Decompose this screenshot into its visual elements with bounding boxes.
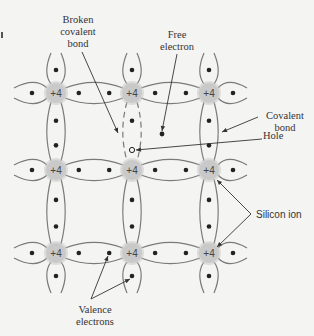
valence-electron (54, 68, 59, 73)
bond-curve (200, 53, 204, 84)
valence-electron (77, 91, 82, 96)
valence-electron (207, 224, 212, 229)
bond-curve (61, 179, 65, 244)
hole-label: Hole (263, 130, 283, 142)
bond-curve (14, 82, 47, 88)
free-electron-label: Free electron (154, 29, 200, 53)
bond-curve (47, 53, 51, 84)
valence-electron (54, 118, 59, 123)
valence-electrons-label-line2: electrons (70, 316, 120, 328)
valence-electron (207, 198, 212, 203)
bond-curve (218, 159, 247, 165)
bond-curve (65, 258, 123, 264)
valence-electron (77, 168, 82, 173)
bond-curve (218, 98, 247, 104)
bond-curve (65, 98, 123, 104)
bond-curve (141, 159, 200, 165)
bond-curve (137, 179, 141, 244)
valence-leader-left (91, 256, 108, 299)
silicon-ion: +4 (120, 241, 144, 265)
valence-electron (231, 251, 236, 256)
bond-curve (61, 53, 65, 84)
valence-electron (107, 251, 112, 256)
valence-electron (30, 251, 35, 256)
bond-curve (218, 82, 247, 88)
bond-curve (123, 262, 127, 293)
valence-electron (54, 224, 59, 229)
silicon-ion: +4 (44, 158, 68, 182)
silicon-ion: +4 (44, 81, 68, 105)
valence-electron (54, 143, 59, 148)
ion-charge: +4 (203, 88, 215, 99)
ion-charge: +4 (50, 165, 62, 176)
bond-curve (65, 159, 123, 165)
valence-electron (130, 198, 135, 203)
hole-marker (129, 147, 134, 152)
bond-curve (14, 175, 47, 181)
bond-curve (14, 98, 47, 104)
free-electron-leader (162, 54, 177, 131)
bond-curve (65, 82, 123, 88)
hole-leader (136, 139, 262, 150)
bond-curve (214, 179, 218, 244)
bond-curve (218, 242, 247, 248)
bond-curve (14, 258, 47, 264)
valence-electron (207, 68, 212, 73)
valence-electron (130, 224, 135, 229)
valence-leader-left-arrowhead (104, 256, 108, 261)
ion-charge: +4 (203, 248, 215, 259)
bond-curve (200, 102, 204, 161)
bond-curve (14, 159, 47, 165)
bond-curve (218, 258, 247, 264)
valence-electron (184, 91, 189, 96)
silicon-ion-leader-lower (217, 214, 251, 247)
ion-charge: +4 (126, 165, 138, 176)
valence-electron (153, 168, 158, 173)
bond-curve (65, 242, 123, 248)
silicon-ion: +4 (197, 241, 221, 265)
bond-curve (141, 242, 200, 248)
valence-electron (54, 198, 59, 203)
silicon-ion: +4 (197, 81, 221, 105)
silicon-ion: +4 (120, 81, 144, 105)
valence-electron (153, 91, 158, 96)
bond-curve (214, 102, 218, 161)
valence-electron (231, 168, 236, 173)
valence-electron (207, 274, 212, 279)
free-electron-label-line2: electron (154, 41, 200, 53)
bond-curve (47, 262, 51, 293)
broken-bond-label-line2: covalent (48, 26, 108, 38)
bond-curve (123, 179, 127, 244)
valence-electron (130, 68, 135, 73)
bond-curve (14, 242, 47, 248)
silicon-ion-leader-upper (217, 180, 251, 214)
broken-bond-label: Broken covalent bond (48, 14, 108, 50)
bond-curve (61, 102, 65, 161)
bond-curve (137, 53, 141, 84)
bond-curve (218, 175, 247, 181)
bond-curve (61, 262, 65, 293)
broken-bond-label-line3: bond (48, 38, 108, 50)
valence-leader-right (91, 279, 130, 299)
valence-electron (130, 274, 135, 279)
ion-charge: +4 (50, 248, 62, 259)
bond-curve (214, 262, 218, 293)
valence-electron (107, 168, 112, 173)
bond-curve (65, 175, 123, 181)
valence-electron (130, 118, 135, 123)
broken-bond-curve (137, 102, 141, 161)
silicon-ion: +4 (44, 241, 68, 265)
valence-electron (77, 251, 82, 256)
ion-charge: +4 (50, 88, 62, 99)
covalent-bond-label-line1: Covalent (260, 110, 310, 122)
valence-electron (184, 168, 189, 173)
covalent-bond-leader (222, 117, 258, 132)
bond-curve (200, 262, 204, 293)
ion-charge: +4 (126, 88, 138, 99)
bond-curve (47, 102, 51, 161)
free-electron-label-line1: Free (154, 29, 200, 41)
broken-bond-leader (82, 52, 118, 133)
silicon-ion: +4 (197, 158, 221, 182)
ion-charge: +4 (126, 248, 138, 259)
valence-electrons-label: Valence electrons (70, 304, 120, 328)
